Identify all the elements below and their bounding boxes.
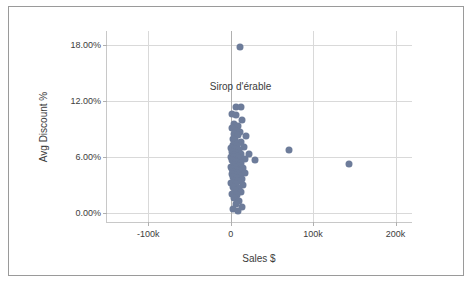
gridline-horizontal bbox=[107, 157, 412, 158]
x-tick-label: 200k bbox=[386, 229, 406, 239]
x-tick-mark bbox=[313, 222, 314, 226]
y-tick-mark bbox=[103, 101, 107, 102]
x-axis-title: Sales $ bbox=[106, 253, 412, 264]
gridline-horizontal bbox=[107, 45, 412, 46]
gridline-vertical bbox=[396, 31, 397, 222]
scatter-point[interactable] bbox=[237, 104, 244, 111]
x-tick-mark bbox=[231, 222, 232, 226]
y-tick-mark bbox=[103, 45, 107, 46]
y-tick-mark bbox=[103, 213, 107, 214]
chart-frame: 0.00%6.00%12.00%18.00%-100k0100k200kSiro… bbox=[8, 6, 464, 276]
y-tick-label: 12.00% bbox=[70, 96, 101, 106]
x-tick-label: -100k bbox=[137, 229, 160, 239]
y-tick-mark bbox=[103, 157, 107, 158]
y-tick-label: 0.00% bbox=[75, 208, 101, 218]
x-tick-label: 0 bbox=[228, 229, 233, 239]
x-tick-mark bbox=[148, 222, 149, 226]
scatter-point[interactable] bbox=[286, 146, 293, 153]
scatter-point[interactable] bbox=[235, 207, 242, 214]
gridline-vertical bbox=[148, 31, 149, 222]
gridline-vertical bbox=[313, 31, 314, 222]
x-tick-mark bbox=[396, 222, 397, 226]
y-axis-title: Avg Discount % bbox=[38, 92, 49, 162]
scatter-point[interactable] bbox=[237, 44, 244, 51]
data-point-annotation: Sirop d'érable bbox=[210, 81, 271, 92]
y-tick-label: 18.00% bbox=[70, 40, 101, 50]
scatter-point[interactable] bbox=[346, 161, 353, 168]
gridline-horizontal bbox=[107, 101, 412, 102]
gridline-horizontal bbox=[107, 213, 412, 214]
scatter-point[interactable] bbox=[251, 157, 258, 164]
y-tick-label: 6.00% bbox=[75, 152, 101, 162]
x-tick-label: 100k bbox=[303, 229, 323, 239]
scatter-plot-area[interactable]: 0.00%6.00%12.00%18.00%-100k0100k200kSiro… bbox=[106, 31, 412, 223]
